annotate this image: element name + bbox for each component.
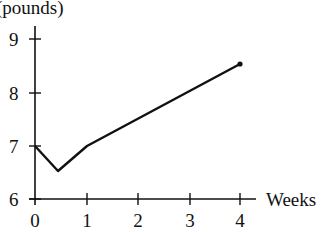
y-axis-label: (pounds) bbox=[0, 0, 64, 19]
x-tick-labels: 0 1 2 3 4 bbox=[30, 210, 245, 231]
x-tick-label: 1 bbox=[82, 210, 92, 231]
endpoint-marker bbox=[237, 61, 242, 66]
y-tick-label: 8 bbox=[9, 83, 19, 104]
x-tick-label: 2 bbox=[133, 210, 143, 231]
y-tick-label: 7 bbox=[9, 136, 19, 157]
line-chart: (pounds) 6 7 8 9 0 1 2 3 4 Weeks bbox=[0, 0, 333, 232]
x-tick-label: 3 bbox=[185, 210, 195, 231]
x-tick-label: 0 bbox=[30, 210, 40, 231]
x-tick-label: 4 bbox=[235, 210, 245, 231]
x-axis-label: Weeks bbox=[266, 189, 316, 210]
y-tick-label: 9 bbox=[9, 29, 19, 50]
data-line bbox=[35, 64, 240, 171]
y-tick-label: 6 bbox=[9, 189, 19, 210]
y-tick-labels: 6 7 8 9 bbox=[9, 29, 19, 210]
